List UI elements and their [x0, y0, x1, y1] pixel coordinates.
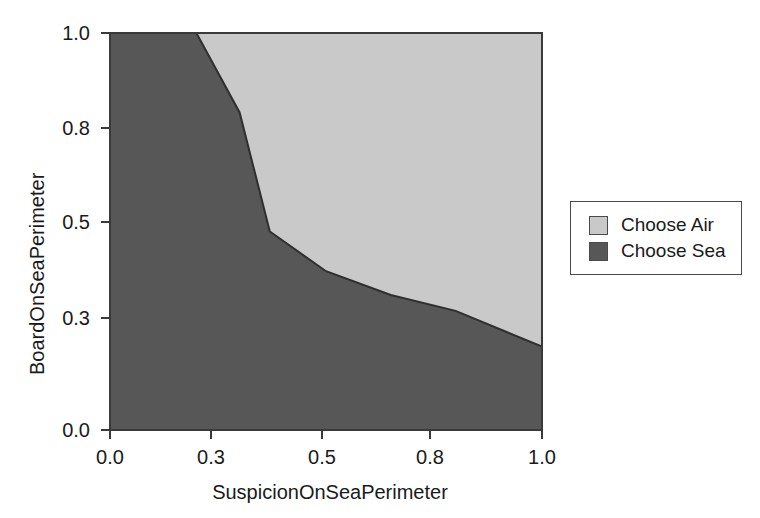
- x-tick-label-0.8: 0.8: [416, 446, 444, 469]
- y-axis-ticks: [101, 33, 110, 430]
- x-tick-label-1.0: 1.0: [528, 446, 556, 469]
- x-tick-label-0.5: 0.5: [308, 446, 336, 469]
- y-tick-label-0.0: 0.0: [38, 419, 90, 442]
- y-tick-label-0.8: 0.8: [38, 117, 90, 140]
- legend: Choose Air Choose Sea: [570, 201, 742, 275]
- x-axis-title: SuspicionOnSeaPerimeter: [212, 481, 448, 504]
- chart-figure: 1.0 0.8 0.5 0.3 0.0 0.0 0.3 0.5 0.8 1.0 …: [0, 0, 760, 518]
- legend-item-choose-air[interactable]: Choose Air: [571, 212, 741, 238]
- legend-swatch-air-icon: [589, 216, 608, 235]
- y-tick-label-1.0: 1.0: [38, 22, 90, 45]
- x-axis-ticks: [110, 430, 542, 439]
- legend-label-choose-sea: Choose Sea: [621, 240, 726, 262]
- x-tick-label-0.3: 0.3: [197, 446, 225, 469]
- y-axis-title: BoardOnSeaPerimeter: [26, 173, 49, 375]
- x-tick-label-0.0: 0.0: [96, 446, 124, 469]
- legend-label-choose-air: Choose Air: [621, 214, 714, 236]
- legend-swatch-sea-icon: [589, 242, 608, 261]
- legend-item-choose-sea[interactable]: Choose Sea: [571, 238, 741, 264]
